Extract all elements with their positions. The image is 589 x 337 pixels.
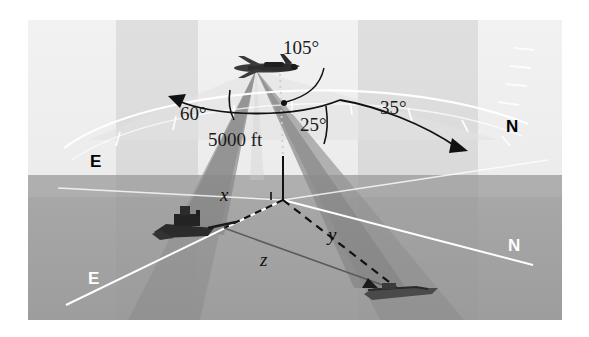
compass-north-upper: N xyxy=(506,118,518,135)
axis-horizon-left xyxy=(58,188,283,200)
compass-north-lower: N xyxy=(508,237,520,254)
label-altitude: 5000 ft xyxy=(208,130,262,149)
label-distance-y: y xyxy=(328,225,336,244)
label-angle-35: 35° xyxy=(380,98,407,117)
compass-east-upper: E xyxy=(90,153,101,170)
figure-canvas: 105° 60° 25° 35° 5000 ft x y z N E N E xyxy=(0,0,589,337)
label-angle-25: 25° xyxy=(300,115,327,134)
arrow-35-right xyxy=(449,138,468,153)
label-distance-z: z xyxy=(260,250,267,269)
label-distance-x: x xyxy=(220,185,228,204)
compass-ticks-right xyxy=(498,48,534,105)
scene: 105° 60° 25° 35° 5000 ft x y z N E N E xyxy=(28,20,562,320)
label-angle-60: 60° xyxy=(180,104,207,123)
geometry-layer xyxy=(28,20,562,320)
apex-dot xyxy=(281,100,287,106)
label-angle-105: 105° xyxy=(283,38,319,57)
compass-east-lower: E xyxy=(88,270,99,287)
